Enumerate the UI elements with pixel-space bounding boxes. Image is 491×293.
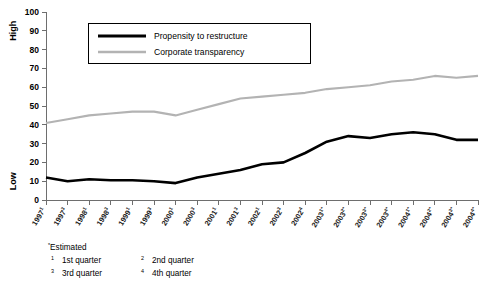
x-axis-tick-label: 20041*	[395, 206, 415, 229]
x-axis-tick-label-text: 20034*	[374, 206, 394, 229]
chart-legend: Propensity to restructureCorporate trans…	[88, 23, 310, 63]
x-axis-tick-label-text: 19993	[137, 206, 156, 228]
x-axis-tick-superscript: 2*	[339, 206, 347, 213]
y-axis-low-label: Low	[8, 171, 18, 190]
x-axis-tick-label-text: 20043*	[438, 206, 458, 229]
y-axis-tick-label: 80	[30, 45, 40, 55]
x-axis-tick-label-text: 19981	[72, 206, 91, 228]
y-axis-tick-label: 0	[34, 195, 39, 205]
chart-svg: 0102030405060708090100HighLow 1997119973…	[0, 0, 491, 293]
x-axis-tick-label: 20034*	[374, 206, 394, 229]
x-axis-tick-label-text: 20032*	[330, 206, 350, 229]
x-axis-tick-superscript: 1*	[318, 206, 326, 213]
x-axis-tick-label-text: 20031*	[309, 206, 329, 229]
y-axis-tick-label: 90	[30, 26, 40, 36]
x-axis-tick-superscript: 1	[254, 206, 261, 212]
y-axis-tick-label: 60	[30, 82, 40, 92]
legend-label-propensity-to-restructure: Propensity to restructure	[154, 31, 248, 41]
x-axis-tick-superscript: 1	[124, 206, 131, 212]
x-axis: 1997119973199811998319991199932000120003…	[29, 200, 480, 229]
y-axis-tick-label: 100	[25, 7, 39, 17]
x-axis-tick-label: 20033*	[352, 206, 372, 229]
x-axis-tick-superscript: 1*	[404, 206, 412, 213]
footnote-marker: 3	[51, 268, 54, 274]
series-line-propensity-to-restructure	[46, 132, 478, 183]
x-axis-tick-label-text: 20041*	[395, 206, 415, 229]
x-axis-tick-superscript: 3*	[447, 206, 455, 213]
y-axis-high-label: High	[8, 21, 18, 41]
x-axis-tick-label: 20044*	[460, 206, 480, 229]
x-axis-tick-label: 20023	[267, 206, 286, 228]
x-axis-tick-label: 20042*	[417, 206, 437, 229]
x-axis-tick-superscript: 3*	[361, 206, 369, 213]
x-axis-tick-label: 19981	[72, 206, 91, 228]
x-axis-tick-label: 20013	[223, 206, 242, 228]
x-axis-tick-superscript: 2*	[426, 206, 434, 213]
x-axis-tick-label-text: 20013	[223, 206, 242, 228]
x-axis-tick-superscript: 3	[59, 206, 66, 212]
x-axis-tick-label-text: 19983	[94, 206, 113, 228]
x-axis-tick-superscript: 1	[81, 206, 88, 212]
x-axis-tick-label: 20043*	[438, 206, 458, 229]
series-line-corporate-transparency	[46, 76, 478, 123]
x-axis-tick-superscript: 1	[211, 206, 218, 212]
x-axis-tick-superscript: 3	[275, 206, 282, 212]
y-axis-tick-label: 50	[30, 101, 40, 111]
footnote-item-text: 2nd quarter	[152, 256, 194, 265]
x-axis-tick-label: 20011	[202, 206, 221, 228]
x-axis-tick-label: 19971	[29, 206, 48, 228]
x-axis-tick-label: 19973	[51, 206, 70, 228]
y-axis-tick-label: 40	[30, 120, 40, 130]
x-axis-tick-superscript: 3	[232, 206, 239, 212]
x-axis-tick-superscript: 1	[167, 206, 174, 212]
x-axis-tick-label-text: 20001	[159, 206, 178, 228]
x-axis-tick-label-text: 20042*	[417, 206, 437, 229]
x-axis-tick-label-text: 20023	[267, 206, 286, 228]
x-axis-tick-superscript: 4	[297, 206, 304, 212]
x-axis-tick-label-text: 20011	[202, 206, 221, 228]
y-axis-tick-label: 20	[30, 157, 40, 167]
footnote-item-text: 4th quarter	[152, 269, 192, 278]
x-axis-tick-superscript: 1	[38, 206, 45, 212]
x-axis-tick-label-text: 20003	[180, 206, 199, 228]
x-axis-tick-superscript: 4*	[382, 206, 390, 213]
footnote-marker: 2	[141, 255, 144, 261]
y-axis: 0102030405060708090100HighLow	[8, 7, 46, 205]
x-axis-tick-label-text: 20024	[288, 206, 307, 228]
x-axis-tick-label: 20021	[245, 206, 264, 228]
x-axis-tick-label-text: 20033*	[352, 206, 372, 229]
x-axis-tick-label: 19991	[115, 206, 134, 228]
footnote-item-text: 1st quarter	[62, 256, 101, 265]
footnote-item-text: 3rd quarter	[62, 269, 102, 278]
x-axis-tick-label-text: 19991	[115, 206, 134, 228]
y-axis-tick-label: 10	[30, 176, 40, 186]
x-axis-tick-label: 20031*	[309, 206, 329, 229]
x-axis-tick-label-text: 20021	[245, 206, 264, 228]
x-axis-tick-label: 20001	[159, 206, 178, 228]
line-chart-figure: 0102030405060708090100HighLow 1997119973…	[0, 0, 491, 293]
footnote-marker: 4	[141, 268, 144, 274]
x-axis-tick-label-text: 19973	[51, 206, 70, 228]
chart-footnotes: *Estimated11st quarter33rd quarter22nd q…	[48, 242, 194, 278]
x-axis-tick-superscript: 3	[103, 206, 110, 212]
legend-label-corporate-transparency: Corporate transparency	[154, 47, 245, 57]
x-axis-tick-label: 19993	[137, 206, 156, 228]
x-axis-tick-label-text: 19971	[29, 206, 48, 228]
data-series-group	[46, 76, 478, 183]
x-axis-tick-label: 19983	[94, 206, 113, 228]
x-axis-tick-label: 20003	[180, 206, 199, 228]
x-axis-tick-label-text: 20044*	[460, 206, 480, 229]
x-axis-tick-label: 20024	[288, 206, 307, 228]
x-axis-tick-superscript: 3	[189, 206, 196, 212]
x-axis-tick-superscript: 4*	[469, 206, 477, 213]
x-axis-tick-superscript: 3	[146, 206, 153, 212]
y-axis-tick-label: 30	[30, 139, 40, 149]
footnote-estimated-text: Estimated	[50, 243, 87, 252]
y-axis-tick-label: 70	[30, 63, 40, 73]
footnote-marker: 1	[51, 255, 54, 261]
footnote-estimated: *Estimated	[48, 242, 87, 252]
x-axis-tick-label: 20032*	[330, 206, 350, 229]
